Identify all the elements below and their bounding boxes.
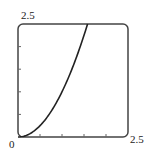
x-max-label: 2.5 <box>130 134 144 145</box>
data-curve <box>18 24 88 137</box>
y-max-label: 2.5 <box>21 10 35 21</box>
plot-area <box>0 0 145 154</box>
plot-frame <box>18 24 128 137</box>
origin-label: 0 <box>9 139 15 150</box>
